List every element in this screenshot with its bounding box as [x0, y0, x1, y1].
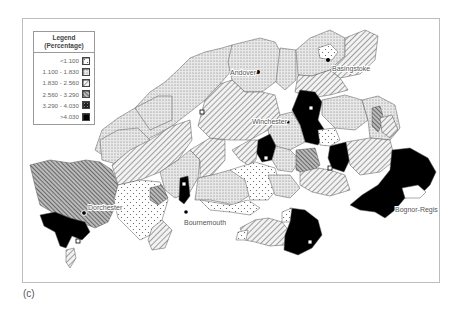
city-label-basingstoke: Basingstoke — [332, 65, 370, 73]
region — [322, 95, 368, 130]
legend-item: 1.100 - 1.830 — [34, 66, 94, 77]
region — [232, 140, 258, 165]
figure-caption: (c) — [23, 288, 35, 299]
light-hatch-swatch-icon — [82, 79, 90, 87]
city-label-andover: Andover — [230, 69, 257, 76]
legend-item-label: 3.290 - 4.030 — [43, 102, 79, 109]
region — [236, 230, 248, 240]
region — [179, 176, 190, 204]
city-label-bognor-regis: Bognor-Regis — [395, 206, 438, 214]
legend-title-line2: (Percentage) — [34, 42, 94, 50]
city-label-dorchester: Dorchester — [88, 204, 123, 211]
legend-item: >4.030 — [34, 111, 94, 122]
legend-item: 2.560 - 3.290 — [34, 89, 94, 100]
square-symbol — [308, 240, 312, 244]
square-symbol — [182, 182, 186, 186]
legend-item-label: 2.560 - 3.290 — [43, 91, 79, 98]
region — [268, 175, 300, 198]
legend-item: 3.290 - 4.030 — [34, 100, 94, 111]
region — [346, 138, 395, 175]
square-symbol — [200, 110, 204, 114]
andover-marker — [256, 70, 260, 74]
solid-black-swatch-icon — [82, 113, 90, 121]
bournemouth-marker — [184, 210, 188, 214]
crosshatch-swatch-icon — [82, 101, 90, 109]
dark-hatch-swatch-icon — [82, 90, 90, 98]
square-symbol — [328, 166, 332, 170]
legend-item-label: >4.030 — [60, 113, 79, 120]
region — [300, 168, 350, 196]
region — [318, 128, 340, 146]
square-symbol — [76, 239, 80, 243]
square-symbol — [309, 106, 313, 110]
legend: Legend (Percentage) <1.100 1.100 - 1.830… — [33, 31, 95, 125]
dorchester-marker — [82, 211, 87, 216]
legend-item-label: 1.830 - 2.560 — [43, 79, 79, 86]
region — [66, 248, 76, 268]
legend-item: <1.100 — [34, 55, 94, 66]
legend-item-label: 1.100 - 1.830 — [43, 68, 79, 75]
city-label-winchester: Winchester — [252, 118, 288, 125]
city-label-bournemouth: Bournemouth — [184, 219, 226, 226]
basingstoke-marker — [326, 58, 330, 62]
sparse-dots-swatch-icon — [82, 57, 90, 65]
legend-item-label: <1.100 — [60, 57, 79, 64]
legend-title-line1: Legend — [34, 34, 94, 42]
region — [282, 208, 292, 222]
bognor-regis-marker — [397, 199, 401, 203]
square-symbol — [264, 156, 268, 160]
legend-title: Legend (Percentage) — [34, 32, 94, 53]
legend-item: 1.830 - 2.560 — [34, 77, 94, 88]
dense-dots-swatch-icon — [82, 68, 90, 76]
